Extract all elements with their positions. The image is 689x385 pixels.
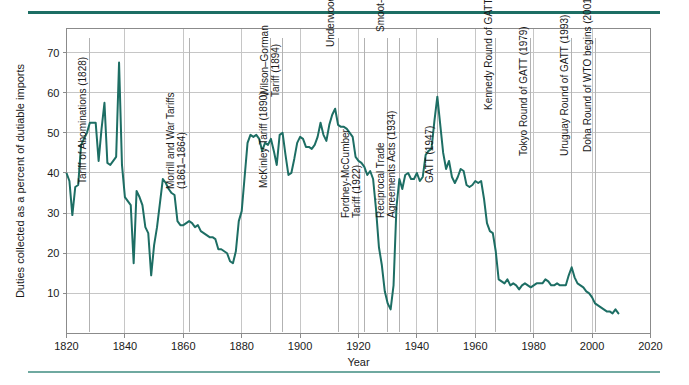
annotation-label-group: Wilson–GormanTariff (1894) [259, 25, 281, 97]
x-tick-label: 1840 [113, 340, 137, 352]
y-tick-label: 50 [47, 127, 59, 139]
annotation-label: Underwood Tariff (1913) [325, 0, 336, 47]
y-tick-label: 20 [47, 247, 59, 259]
annotation-label: (1861–1864) [176, 132, 187, 189]
x-tick-label: 1880 [229, 340, 253, 352]
annotation-label: Tokyo Round of GATT (1979) [518, 26, 529, 156]
chart-plot-area: 1020304050607018201840186018801900192019… [0, 0, 689, 385]
y-tick-label: 60 [47, 87, 59, 99]
annotation-label: Morrill and War Tariffs [165, 92, 176, 189]
annotation-label-group: Doha Round of WTO begins (2001) [582, 0, 593, 152]
y-axis-title: Duties collected as a percent of dutiabl… [14, 63, 26, 298]
annotation-label: Kennedy Round of GATT (1967) [483, 0, 494, 110]
y-tick-label: 10 [47, 287, 59, 299]
tariff-line-chart: 1020304050607018201840186018801900192019… [0, 0, 689, 385]
annotation-label-group: Morrill and War Tariffs(1861–1864) [165, 92, 187, 189]
x-tick-label: 1980 [521, 340, 545, 352]
annotation-label: Tariff (1894) [270, 44, 281, 97]
x-axis-title: Year [347, 356, 370, 368]
x-tick-label: 1920 [346, 340, 370, 352]
annotation-label-group: Fordney-McCumberTariff (1922) [340, 128, 362, 218]
annotation-label: Agreements Acts (1934) [386, 111, 397, 218]
y-tick-label: 70 [47, 47, 59, 59]
x-tick-label: 1820 [54, 340, 78, 352]
annotation-label-group: Smoot-Hawley Tariff (1930) [375, 0, 386, 32]
annotation-label-group: GATT (1947) [424, 126, 435, 183]
annotation-label-group: Tariff of Abominations (1828) [77, 57, 88, 184]
annotation-label: Reciprocal Trade [375, 142, 386, 218]
annotation-label-group: McKinley Tariff (1890) [258, 92, 269, 188]
annotation-label: McKinley Tariff (1890) [258, 92, 269, 188]
x-tick-label: 1940 [405, 340, 429, 352]
x-tick-label: 1960 [463, 340, 487, 352]
annotation-label-group: Tokyo Round of GATT (1979) [518, 26, 529, 156]
x-tick-label: 2000 [580, 340, 604, 352]
annotation-label-group: Reciprocal TradeAgreements Acts (1934) [375, 111, 397, 218]
annotation-label: Fordney-McCumber [340, 128, 351, 218]
x-tick-label: 1900 [288, 340, 312, 352]
annotation-label: Uruguay Round of GATT (1993) [559, 15, 570, 156]
annotation-label: Doha Round of WTO begins (2001) [582, 0, 593, 152]
annotation-label: Smoot-Hawley Tariff (1930) [375, 0, 386, 32]
annotation-label: Tariff of Abominations (1828) [77, 57, 88, 184]
annotation-label-group: Underwood Tariff (1913) [325, 0, 336, 47]
y-tick-label: 40 [47, 167, 59, 179]
y-tick-label: 30 [47, 207, 59, 219]
annotation-label-group: Kennedy Round of GATT (1967) [483, 0, 494, 110]
annotation-label: GATT (1947) [424, 126, 435, 183]
annotation-label: Tariff (1922) [351, 165, 362, 218]
x-tick-label: 2020 [638, 340, 662, 352]
figure-container: 1020304050607018201840186018801900192019… [0, 0, 689, 385]
annotation-label: Wilson–Gorman [259, 25, 270, 97]
x-tick-label: 1860 [171, 340, 195, 352]
annotation-label-group: Uruguay Round of GATT (1993) [559, 15, 570, 156]
